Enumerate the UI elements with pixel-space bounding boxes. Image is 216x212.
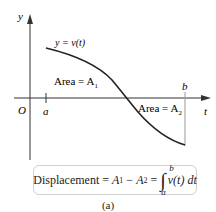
area-a2-label: Area = A2 [138, 102, 182, 117]
origin-label: O [18, 104, 26, 116]
integral-lower-limit: a [161, 188, 166, 197]
t-axis-label: t [204, 105, 208, 117]
curve-label: y = v(t) [54, 37, 86, 49]
displacement-formula-box: Displacement = A1 − A2 = ∫ba v(t) dt [33, 165, 197, 195]
formula-eq: = [150, 173, 157, 188]
integral-sign-icon: ∫ba [160, 170, 165, 190]
formula-a1-sub: 1 [119, 176, 123, 185]
area-a1-label: Area = A1 [54, 75, 98, 90]
velocity-curve [46, 48, 185, 145]
y-axis-label: y [17, 10, 23, 22]
formula-a2: A [136, 173, 143, 188]
tick-b-label: b [182, 80, 188, 92]
formula-minus: − [126, 173, 133, 188]
y-axis-arrow-icon [27, 14, 33, 24]
formula-a1: A [112, 173, 119, 188]
figure-caption: (a) [0, 199, 216, 211]
tick-a-label: a [43, 105, 49, 117]
formula-integrand: v(t) dt [168, 173, 197, 188]
t-axis-arrow-icon [201, 95, 211, 101]
integral-upper-limit: b [169, 164, 174, 173]
formula-lhs: Displacement = [33, 173, 109, 188]
formula-a2-sub: 2 [143, 176, 147, 185]
